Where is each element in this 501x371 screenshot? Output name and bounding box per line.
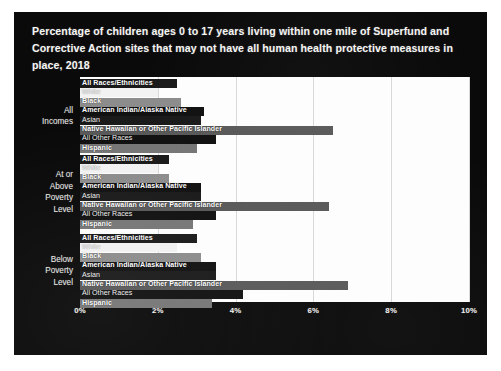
y-axis-group-label: Below Poverty Level: [45, 254, 73, 289]
bar-row[interactable]: White: [80, 164, 469, 173]
y-axis-group-label: At or Above Poverty Level: [45, 169, 73, 216]
bar-series-label: Hispanic: [82, 145, 112, 152]
bar-series-label: All Races/Ethnicities: [82, 80, 153, 87]
bar-row[interactable]: Native Hawaiian or Other Pacific Islande…: [80, 202, 469, 211]
bar-series-label: Asian: [82, 193, 100, 200]
bar-row[interactable]: Hispanic: [80, 220, 469, 229]
bar-row[interactable]: All Races/Ethnicities: [80, 79, 469, 88]
bar-row[interactable]: Black: [80, 98, 469, 107]
bar-row[interactable]: American Indian/Alaska Native: [80, 262, 469, 271]
bar-row[interactable]: All Races/Ethnicities: [80, 155, 469, 164]
bar-row[interactable]: All Other Races: [80, 211, 469, 220]
bar-group: At or Above Poverty LevelAll Races/Ethni…: [80, 155, 469, 229]
bar-series-label: All Other Races: [82, 136, 132, 143]
bar-row[interactable]: All Other Races: [80, 290, 469, 299]
bar-row[interactable]: Native Hawaiian or Other Pacific Islande…: [80, 126, 469, 135]
bar-row[interactable]: American Indian/Alaska Native: [80, 183, 469, 192]
bar-series-label: All Races/Ethnicities: [82, 235, 153, 242]
bar-row[interactable]: All Other Races: [80, 135, 469, 144]
bar-series-label: Native Hawaiian or Other Pacific Islande…: [82, 202, 222, 209]
bar-row[interactable]: White: [80, 243, 469, 252]
bar-series-label: All Races/Ethnicities: [82, 156, 153, 163]
bar-series-label: American Indian/Alaska Native: [82, 184, 187, 191]
x-tick-label: 2%: [152, 306, 164, 315]
bar-group: Below Poverty LevelAll Races/Ethnicities…: [80, 234, 469, 308]
bar-series-label: All Other Races: [82, 212, 132, 219]
slide-photo: Percentage of children ages 0 to 17 year…: [0, 0, 501, 371]
bar-group: All IncomesAll Races/EthnicitiesWhiteBla…: [80, 79, 469, 153]
bar-row[interactable]: Asian: [80, 116, 469, 125]
bar-row[interactable]: Asian: [80, 192, 469, 201]
x-tick-label: 4%: [230, 306, 242, 315]
gridline-10%: [469, 77, 470, 302]
bar-series-label: Black: [82, 254, 101, 261]
chart-title: Percentage of children ages 0 to 17 year…: [32, 23, 462, 74]
bar-row[interactable]: All Races/Ethnicities: [80, 234, 469, 243]
slide-canvas: Percentage of children ages 0 to 17 year…: [14, 12, 487, 355]
bar-series-label: Hispanic: [82, 221, 112, 228]
bar-series-label: White: [82, 89, 100, 96]
bar-series-label: American Indian/Alaska Native: [82, 108, 187, 115]
bar-series-label: Black: [82, 175, 101, 182]
bar-series-label: Asian: [82, 117, 100, 124]
x-tick-label: 6%: [308, 306, 320, 315]
bar-series-label: Hispanic: [82, 300, 112, 307]
bar-series-label: All Other Races: [82, 291, 132, 298]
bar-series-label: American Indian/Alaska Native: [82, 263, 187, 270]
x-axis-ticks: 0%2%4%6%8%10%: [80, 306, 469, 322]
bar-series-label: Native Hawaiian or Other Pacific Islande…: [82, 281, 222, 288]
bar-series-label: Native Hawaiian or Other Pacific Islande…: [82, 126, 222, 133]
bar-row[interactable]: American Indian/Alaska Native: [80, 107, 469, 116]
bar-row[interactable]: White: [80, 88, 469, 97]
chart-plot-wrapper: All IncomesAll Races/EthnicitiesWhiteBla…: [80, 77, 469, 302]
x-tick-label: 0%: [74, 306, 86, 315]
y-axis-group-label: All Incomes: [42, 105, 73, 128]
bar-series-label: White: [82, 244, 100, 251]
bar-series-label: Black: [82, 99, 101, 106]
bar-series-label: Asian: [82, 272, 100, 279]
bar-row[interactable]: Asian: [80, 271, 469, 280]
x-tick-label: 8%: [385, 306, 397, 315]
bar-row[interactable]: Black: [80, 253, 469, 262]
bar[interactable]: [80, 271, 216, 280]
bar-row[interactable]: Black: [80, 174, 469, 183]
x-tick-label: 10%: [461, 306, 477, 315]
bar-row[interactable]: Hispanic: [80, 144, 469, 153]
bar-series-label: White: [82, 165, 100, 172]
bar-row[interactable]: Native Hawaiian or Other Pacific Islande…: [80, 281, 469, 290]
